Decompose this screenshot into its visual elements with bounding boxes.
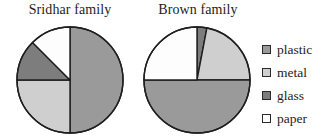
legend-label-plastic: plastic <box>277 42 312 57</box>
pie-slice-plastic[interactable] <box>144 80 250 133</box>
legend-swatch-paper <box>262 114 271 123</box>
legend-swatch-metal <box>262 68 271 77</box>
pie-slice-plastic[interactable] <box>70 27 123 133</box>
legend-item-paper[interactable]: paper <box>262 107 332 130</box>
legend-label-glass: glass <box>277 88 304 103</box>
pie-slice-metal[interactable] <box>17 80 70 133</box>
legend-item-metal[interactable]: metal <box>262 61 332 84</box>
pie-sridhar <box>17 27 123 133</box>
pie-chart-figure: Sridhar family Brown family plastic meta… <box>0 0 332 139</box>
legend: plastic metal glass paper <box>262 38 332 132</box>
legend-swatch-plastic <box>262 45 271 54</box>
legend-item-plastic[interactable]: plastic <box>262 38 332 61</box>
legend-item-glass[interactable]: glass <box>262 84 332 107</box>
legend-swatch-glass <box>262 91 271 100</box>
pie-brown <box>144 27 250 133</box>
pie-slice-paper[interactable] <box>144 27 197 80</box>
legend-label-metal: metal <box>277 65 307 80</box>
pie-slice-metal[interactable] <box>197 28 250 80</box>
legend-label-paper: paper <box>277 111 307 126</box>
